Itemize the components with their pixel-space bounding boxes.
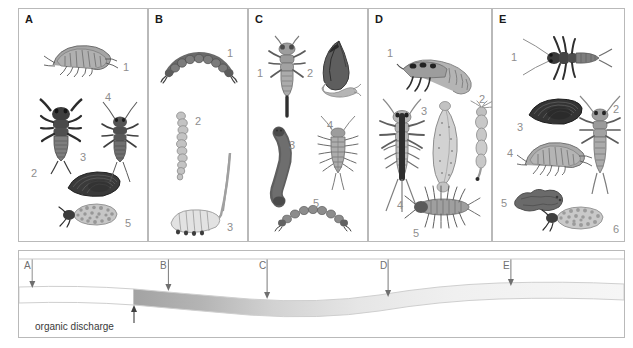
marker-label-B: B [160, 260, 167, 271]
organism-number: 5 [125, 217, 131, 229]
organism-mayfly-nymph [521, 35, 613, 85]
organism-number: 2 [613, 103, 619, 115]
river-gradient-panel: A B C D E organic discharge [18, 250, 625, 338]
panel-letter-C: C [255, 13, 263, 25]
panel-letter-E: E [499, 13, 507, 25]
organism-caddisfly-larva-in-case [541, 203, 607, 233]
organism-number: 2 [307, 67, 313, 79]
figure-root: A [0, 0, 633, 348]
organism-number: 1 [511, 51, 517, 63]
panel-E[interactable]: E [492, 8, 625, 242]
organism-number: 2 [31, 167, 37, 179]
organism-number: 4 [105, 91, 111, 103]
panel-D[interactable]: D [368, 8, 492, 242]
organic-discharge-arrow [131, 305, 137, 323]
river-band [19, 282, 624, 317]
organism-damselfly-nymph [265, 35, 309, 117]
marker-label-C: C [259, 260, 266, 271]
organism-freshwater-shrimp-amphipod [517, 135, 593, 177]
organism-number: 3 [289, 139, 295, 151]
organism-number: 4 [327, 119, 333, 131]
organism-water-louse-asellus [405, 185, 481, 229]
panel-letter-D: D [375, 13, 383, 25]
organic-discharge-label: organic discharge [35, 321, 114, 332]
organism-pond-snail [317, 39, 361, 101]
organism-freshwater-shrimp-amphipod [43, 39, 119, 79]
organism-leech [425, 101, 465, 193]
organism-number: 5 [313, 197, 319, 209]
panels-row: A [18, 8, 625, 242]
organism-number: 5 [501, 197, 507, 209]
panel-letter-A: A [25, 13, 33, 25]
organism-number: 1 [227, 47, 233, 59]
panel-B[interactable]: B [148, 8, 248, 242]
organism-freshwater-mussel [525, 95, 585, 127]
organism-number: 5 [413, 227, 419, 239]
organism-number: 6 [613, 223, 619, 235]
organism-number: 3 [227, 221, 233, 233]
organism-stonefly-nymph [37, 97, 85, 175]
organism-mayfly-nymph [99, 101, 141, 183]
organism-number: 1 [387, 47, 393, 59]
organism-number: 3 [517, 121, 523, 133]
organism-caddisfly-larva [397, 51, 481, 97]
organism-number: 2 [479, 93, 485, 105]
panel-A[interactable]: A [18, 8, 148, 242]
marker-label-A: A [24, 260, 31, 271]
organism-number: 4 [397, 199, 403, 211]
organism-number: 3 [80, 151, 86, 163]
organism-number: 4 [507, 147, 513, 159]
marker-label-E: E [503, 260, 510, 271]
organism-bloodworm-chironomid-larva [161, 51, 237, 83]
panel-letter-B: B [155, 13, 163, 25]
panel-C[interactable]: C [248, 8, 368, 242]
organism-number: 1 [257, 67, 263, 79]
organism-caddisfly-larva-in-case [59, 201, 121, 229]
organism-water-louse-asellus [315, 115, 361, 191]
organism-number: 1 [123, 61, 129, 73]
organism-number: 2 [195, 115, 201, 127]
marker-label-D: D [380, 260, 387, 271]
organism-number: 3 [421, 105, 427, 117]
